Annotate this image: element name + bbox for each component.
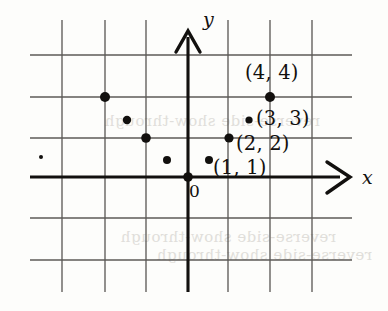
point-label-4-4: (4, 4) xyxy=(245,63,299,83)
grid-lines xyxy=(30,20,352,292)
data-point-3-3 xyxy=(245,116,252,123)
data-point-4-4 xyxy=(265,92,275,102)
point-label-3-3: (3, 3) xyxy=(256,109,310,129)
point-label-2-2: (2, 2) xyxy=(236,134,290,154)
data-point xyxy=(141,133,151,143)
data-point-speck xyxy=(39,155,43,159)
origin-label: 0 xyxy=(189,183,200,200)
figure-canvas xyxy=(0,0,388,311)
data-point xyxy=(163,156,171,164)
data-point-2-2 xyxy=(224,133,233,142)
coordinate-plane-figure: reverse-side show-through reverse-side s… xyxy=(0,0,388,311)
data-point-1-1 xyxy=(205,156,213,164)
data-point xyxy=(123,116,131,124)
point-label-1-1: (1, 1) xyxy=(213,158,267,178)
y-axis-label: y xyxy=(203,10,214,29)
data-point xyxy=(100,92,110,102)
x-axis-label: x xyxy=(362,168,373,187)
